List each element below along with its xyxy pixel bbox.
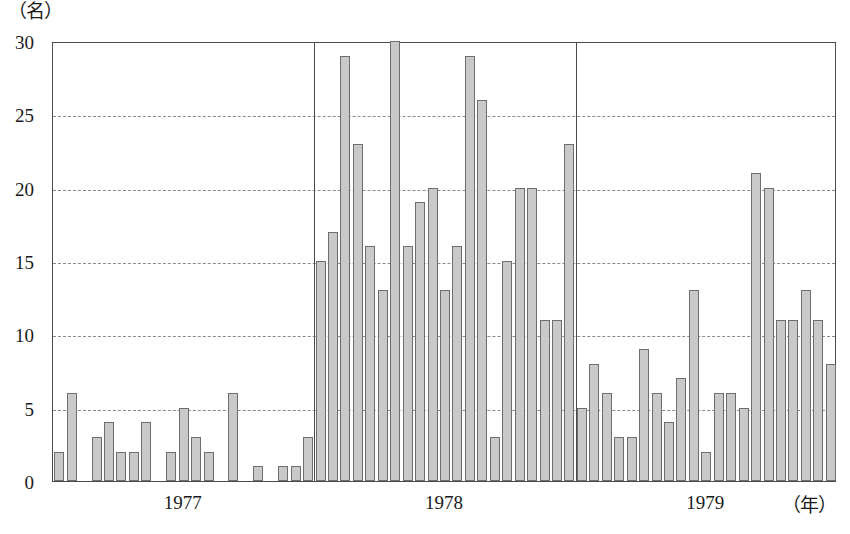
year-dividers [53,43,835,481]
x-tick-label-1979: 1979 [686,492,724,514]
x-tick-label-1978: 1978 [425,492,463,514]
y-tick-label-30: 30 [0,33,34,52]
x-tick-label-1977: 1977 [164,492,202,514]
y-tick-label-5: 5 [0,399,34,418]
y-tick-label-25: 25 [0,106,34,125]
x-axis-unit-label: （年） [782,490,836,517]
y-tick-label-15: 15 [0,253,34,272]
bar-chart: （名） 051015202530 （年） 197719781979 [0,0,850,534]
y-tick-label-10: 10 [0,326,34,345]
y-axis-unit-label: （名） [8,2,62,21]
year-divider-1978 [314,43,315,481]
plot-area [52,42,836,482]
year-divider-1979 [576,43,577,481]
y-tick-label-20: 20 [0,179,34,198]
y-tick-label-0: 0 [0,473,34,492]
